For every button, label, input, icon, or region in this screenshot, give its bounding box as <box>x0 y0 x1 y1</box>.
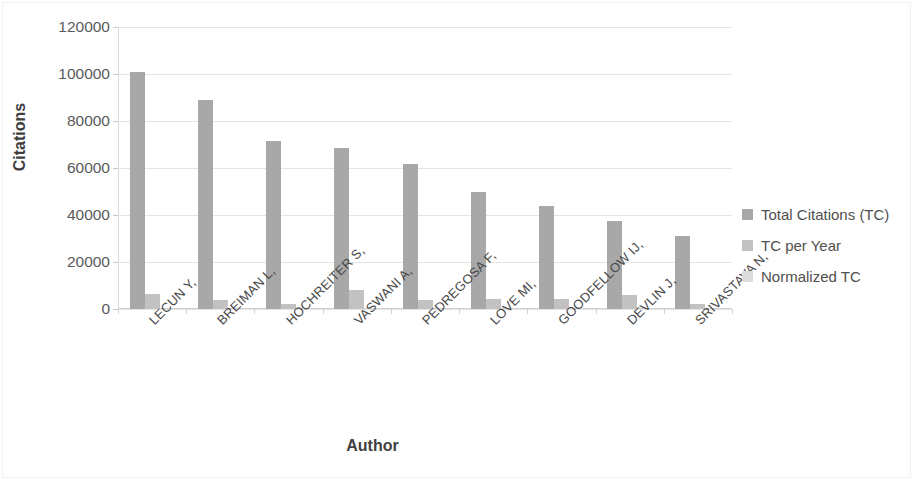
y-axis-tick <box>113 74 118 75</box>
legend-color-swatch <box>742 209 753 220</box>
bar-group <box>539 27 584 309</box>
y-axis-tick-label: 120000 <box>58 19 110 35</box>
bar-group <box>675 27 720 309</box>
y-axis-tick-label: 80000 <box>67 113 110 129</box>
y-axis-tick-label: 60000 <box>67 160 110 176</box>
plot-area <box>118 27 732 309</box>
y-axis-tick-labels: 120000100000800006000040000200000 <box>0 27 110 309</box>
legend-label: Normalized TC <box>761 268 861 285</box>
bar-group <box>266 27 311 309</box>
bar[interactable] <box>539 206 554 309</box>
bar-group <box>198 27 243 309</box>
y-axis-tick <box>113 168 118 169</box>
legend-item[interactable]: Total Citations (TC) <box>742 199 889 230</box>
bar[interactable] <box>130 72 145 309</box>
y-axis-tick-label: 100000 <box>58 66 110 82</box>
legend-color-swatch <box>742 271 753 282</box>
legend-label: Total Citations (TC) <box>761 206 889 223</box>
y-axis-tick <box>113 215 118 216</box>
legend-label: TC per Year <box>761 237 841 254</box>
legend-item[interactable]: Normalized TC <box>742 261 889 292</box>
y-axis-tick <box>113 262 118 263</box>
x-axis-title: Author <box>0 437 830 455</box>
bar[interactable] <box>471 192 486 310</box>
y-axis-tick-label: 0 <box>101 301 110 317</box>
bar[interactable] <box>675 236 690 309</box>
legend-color-swatch <box>742 240 753 251</box>
chart-legend: Total Citations (TC)TC per YearNormalize… <box>742 199 889 292</box>
x-axis-category-labels: LECUN Y,BREIMAN L,HOCHREITER S,VASWANI A… <box>118 309 732 419</box>
bar[interactable] <box>334 148 349 309</box>
y-axis-tick <box>113 27 118 28</box>
y-axis-tick-label: 20000 <box>67 254 110 270</box>
bar-chart-figure: Citations 120000100000800006000040000200… <box>0 0 915 482</box>
x-axis-tick <box>732 309 733 314</box>
bar[interactable] <box>403 164 418 309</box>
y-axis-tick-label: 40000 <box>67 207 110 223</box>
bar-group <box>403 27 448 309</box>
y-axis-tick <box>113 121 118 122</box>
bar[interactable] <box>198 100 213 309</box>
bar-group <box>130 27 175 309</box>
legend-item[interactable]: TC per Year <box>742 230 889 261</box>
